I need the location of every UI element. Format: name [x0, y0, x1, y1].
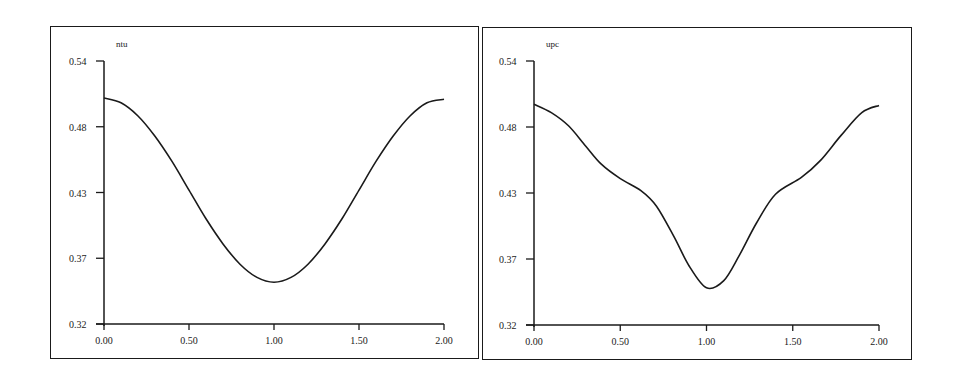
y-tick-label: 0.32 — [499, 320, 517, 331]
x-tick-label: 1.50 — [784, 336, 802, 347]
x-tick-label: 2.00 — [870, 336, 888, 347]
y-tick-label: 0.43 — [499, 188, 517, 199]
y-tick-label: 0.48 — [69, 122, 87, 133]
x-tick-label: 0.00 — [95, 335, 113, 346]
x-tick-label: 2.00 — [435, 335, 453, 346]
y-tick-label: 0.43 — [69, 188, 87, 199]
x-tick-label: 1.00 — [698, 336, 716, 347]
y-tick-label: 0.32 — [69, 319, 87, 330]
series-label: upc — [546, 39, 559, 49]
x-tick-label: 1.00 — [265, 335, 283, 346]
y-tick-label: 0.54 — [499, 56, 517, 67]
x-tick-label: 0.00 — [525, 336, 543, 347]
x-tick-label: 0.50 — [180, 335, 198, 346]
y-tick-label: 0.54 — [69, 56, 87, 67]
chart-panel-ntu: ntu0.320.370.430.480.540.000.501.001.502… — [50, 26, 479, 359]
series-label: ntu — [116, 39, 128, 49]
chart-panel-upc: upc0.320.370.430.480.540.000.501.001.502… — [482, 27, 912, 360]
series-line-upc — [534, 104, 879, 288]
line-chart-upc: upc0.320.370.430.480.540.000.501.001.502… — [483, 28, 913, 361]
y-tick-label: 0.37 — [69, 253, 87, 264]
series-line-ntu — [104, 98, 444, 282]
line-chart-ntu: ntu0.320.370.430.480.540.000.501.001.502… — [51, 27, 480, 360]
x-tick-label: 0.50 — [612, 336, 630, 347]
y-tick-label: 0.48 — [499, 122, 517, 133]
y-tick-label: 0.37 — [499, 254, 517, 265]
x-tick-label: 1.50 — [350, 335, 368, 346]
